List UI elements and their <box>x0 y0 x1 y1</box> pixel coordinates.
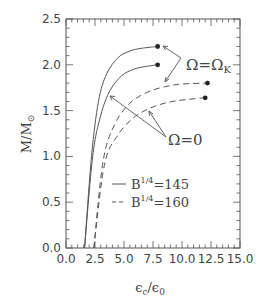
y-tick-label: 0.0 <box>42 241 61 255</box>
axis-ticks <box>66 19 240 248</box>
arrow-omega-k-solid <box>163 46 181 58</box>
annotation-omega-k: Ω=ΩK <box>186 56 231 75</box>
x-tick-label: 10.0 <box>169 252 196 266</box>
arrow-omega-0-dashed <box>149 111 166 137</box>
endpoint-marker <box>205 81 210 86</box>
x-tick-label: 15.0 <box>227 252 254 266</box>
legend-entry-145: B1/4=145 <box>131 176 189 192</box>
x-tick-label: 7.5 <box>143 252 162 266</box>
arrow-omega-k-dashed <box>165 58 181 82</box>
y-tick-label: 2.5 <box>42 12 61 26</box>
x-axis-label: ϵc/ϵ0 <box>135 280 165 297</box>
legend-entry-160: B1/4=160 <box>131 194 189 210</box>
y-tick-label: 1.0 <box>42 149 61 163</box>
curve-3 <box>94 98 205 248</box>
x-tick-label: 2.5 <box>85 252 104 266</box>
endpoint-marker <box>155 44 160 49</box>
endpoint-marker <box>203 95 208 100</box>
y-tick-label: 1.5 <box>42 104 61 118</box>
annotation-omega-0: Ω=0 <box>168 131 203 149</box>
plot-frame <box>66 19 240 248</box>
mass-vs-energy-density-chart: 0.02.55.07.510.012.515.00.00.51.01.52.02… <box>0 0 265 303</box>
y-tick-label: 2.0 <box>42 58 61 72</box>
x-tick-label: 12.5 <box>198 252 225 266</box>
tick-labels: 0.02.55.07.510.012.515.00.00.51.01.52.02… <box>42 12 253 266</box>
endpoint-marker <box>155 62 160 67</box>
annotation-arrows <box>110 46 181 137</box>
legend: B1/4=145 B1/4=160 <box>112 176 189 210</box>
y-axis-label: M/M⊙ <box>19 115 36 154</box>
x-tick-label: 5.0 <box>114 252 133 266</box>
y-tick-label: 0.5 <box>42 195 61 209</box>
